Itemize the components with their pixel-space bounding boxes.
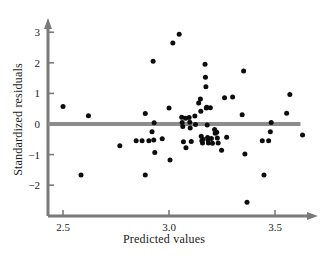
data-point: [177, 32, 182, 37]
data-point: [215, 136, 220, 141]
data-point: [187, 120, 192, 125]
data-point: [208, 105, 213, 110]
data-point: [198, 96, 203, 101]
data-point: [187, 115, 192, 120]
data-point: [86, 113, 91, 118]
data-point: [216, 140, 221, 145]
data-point: [146, 138, 151, 143]
data-point: [205, 122, 210, 127]
data-point: [181, 139, 186, 144]
data-point: [168, 158, 173, 163]
y-tick-label: 3: [16, 27, 40, 38]
x-axis-arrow: [307, 212, 318, 220]
data-point: [266, 138, 271, 143]
data-point: [117, 143, 122, 148]
data-point: [203, 84, 208, 89]
chart-canvas: [0, 0, 328, 258]
data-point: [219, 148, 224, 153]
data-point: [198, 109, 203, 114]
data-point: [230, 95, 235, 100]
data-point: [180, 124, 185, 129]
data-point: [61, 104, 66, 109]
data-point: [167, 106, 172, 111]
data-point: [152, 150, 157, 155]
data-point: [140, 138, 145, 143]
data-point: [287, 92, 292, 97]
data-point: [224, 135, 229, 140]
data-point: [245, 200, 250, 205]
data-point: [151, 137, 156, 142]
x-axis-title: Predicted values: [0, 232, 328, 247]
data-point: [214, 130, 219, 135]
data-point: [203, 62, 208, 67]
data-point: [210, 141, 215, 146]
data-point: [150, 129, 155, 134]
y-axis-arrow: [44, 18, 52, 29]
data-point: [269, 120, 274, 125]
data-point: [160, 136, 165, 141]
data-point: [241, 69, 246, 74]
data-point: [192, 114, 197, 119]
y-axis-title: Standardized residuals: [11, 40, 26, 200]
data-point: [203, 75, 208, 80]
data-point: [261, 173, 266, 178]
data-point: [193, 122, 198, 127]
data-point: [242, 151, 247, 156]
data-point: [170, 40, 175, 45]
data-point: [260, 138, 265, 143]
data-point: [143, 111, 148, 116]
data-point: [152, 120, 157, 125]
data-point: [151, 59, 156, 64]
residual-scatter-plot-figure: −2−10123 2.53.03.5 Predicted values Stan…: [0, 0, 328, 258]
data-point: [134, 138, 139, 143]
data-point: [79, 173, 84, 178]
data-point: [240, 112, 245, 117]
data-point: [188, 125, 193, 130]
data-point: [268, 129, 273, 134]
data-point: [222, 95, 227, 100]
data-point: [300, 133, 305, 138]
data-point: [143, 173, 148, 178]
data-point: [183, 145, 188, 150]
data-point: [284, 111, 289, 116]
data-points-layer: [61, 32, 306, 205]
data-point: [209, 136, 214, 141]
data-point: [200, 137, 205, 142]
plot-area: −2−10123 2.53.03.5: [0, 0, 328, 258]
data-point: [189, 139, 194, 144]
